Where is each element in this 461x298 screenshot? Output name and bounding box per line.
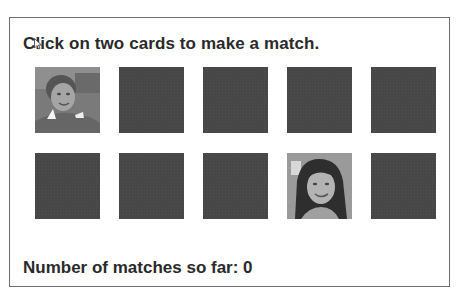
card-7-face-down[interactable]	[203, 153, 268, 219]
card-2-face-down[interactable]	[203, 67, 268, 133]
card-3-face-down[interactable]	[287, 67, 352, 133]
card-9-face-down[interactable]	[371, 153, 436, 219]
instruction-heading: Click on two cards to make a match.	[23, 34, 319, 54]
photo-woman-long-hair-icon	[287, 153, 352, 219]
card-8-face-up[interactable]	[287, 153, 352, 219]
matches-count: 0	[243, 258, 252, 277]
matches-label: Number of matches so far:	[23, 258, 243, 277]
card-6-face-down[interactable]	[119, 153, 184, 219]
card-5-face-down[interactable]	[35, 153, 100, 219]
card-grid	[35, 67, 436, 219]
card-4-face-down[interactable]	[371, 67, 436, 133]
memory-game-frame: Click on two cards to make a match.	[9, 17, 450, 287]
card-0-face-up[interactable]	[35, 67, 100, 133]
mouse-cursor-icon	[34, 38, 42, 50]
card-1-face-down[interactable]	[119, 67, 184, 133]
matches-counter: Number of matches so far: 0	[23, 258, 253, 278]
photo-woman-short-hair-icon	[35, 67, 100, 133]
